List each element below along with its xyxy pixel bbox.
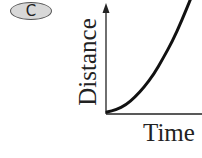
plot-area	[0, 0, 202, 158]
data-curve	[107, 0, 191, 112]
y-axis-arrow-icon	[103, 3, 110, 13]
